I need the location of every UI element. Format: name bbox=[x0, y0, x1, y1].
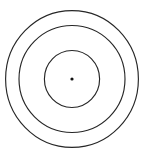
center-point-dot bbox=[70, 77, 73, 80]
concentric-circles-figure: Concentric Circles bbox=[0, 0, 144, 155]
circles-svg-canvas bbox=[0, 0, 144, 155]
